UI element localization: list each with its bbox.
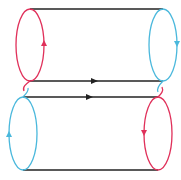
bottom-cylinder xyxy=(6,94,172,170)
bottom-left-blue-cap xyxy=(9,97,37,170)
top-left-red-cap xyxy=(16,9,44,81)
right-red-connector xyxy=(158,87,163,97)
blue-up-arrow-icon xyxy=(6,131,12,137)
cylinder-gluing-diagram xyxy=(0,0,181,180)
bottom-cylinder-edge-arrow-icon xyxy=(86,94,93,100)
top-cylinder xyxy=(16,9,180,84)
top-right-blue-cap xyxy=(149,9,177,81)
bottom-right-red-cap xyxy=(144,97,172,170)
red-up-arrow-icon xyxy=(41,40,47,46)
blue-down-arrow-icon xyxy=(174,41,180,47)
top-cylinder-edge-arrow-icon xyxy=(91,78,98,84)
left-red-connector xyxy=(23,81,30,91)
red-down-arrow-icon xyxy=(141,130,147,136)
